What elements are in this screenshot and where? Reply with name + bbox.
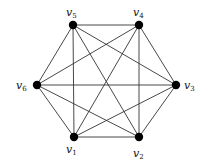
label-v4: v4 <box>133 6 144 20</box>
edge-v5-v6 <box>37 25 73 85</box>
complete-graph-k6: v1v2v3v4v5v6 <box>0 0 202 165</box>
edge-v1-v5 <box>73 25 74 137</box>
node-v2 <box>135 133 143 141</box>
edges <box>37 25 176 137</box>
label-v3: v3 <box>184 79 195 93</box>
node-v3 <box>172 81 180 89</box>
edge-v1-v6 <box>37 85 74 137</box>
node-v1 <box>70 133 78 141</box>
node-v5 <box>69 21 77 29</box>
label-v6: v6 <box>16 79 27 93</box>
node-v4 <box>135 21 143 29</box>
edge-v2-v3 <box>139 85 176 137</box>
node-v6 <box>33 81 41 89</box>
label-v5: v5 <box>66 6 77 20</box>
edge-v3-v4 <box>139 25 176 85</box>
label-v1: v1 <box>66 143 77 157</box>
label-v2: v2 <box>133 147 144 161</box>
